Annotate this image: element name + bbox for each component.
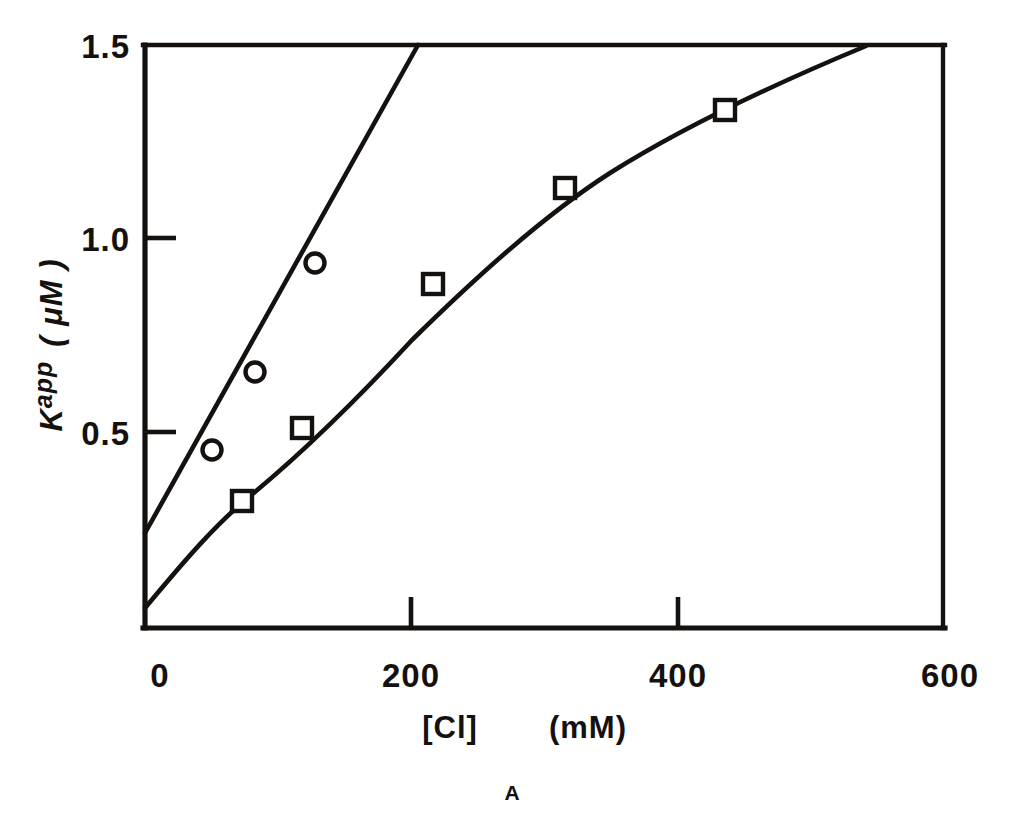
y-axis-title: Kapp( μM )	[29, 258, 69, 431]
data-point-circle-1	[203, 441, 222, 460]
y-axis-ticks	[145, 238, 176, 432]
panel-label-a: A	[504, 781, 519, 804]
data-point-circle-2	[246, 363, 265, 382]
y-tick-label-0: 0	[150, 657, 169, 694]
y-tick-label-0-5: 0.5	[81, 415, 130, 452]
x-tick-label-600: 600	[921, 657, 979, 694]
x-axis-title-bracket: [Cl]	[422, 710, 478, 745]
x-tick-label-200: 200	[382, 657, 440, 694]
axis-frame	[143, 45, 945, 628]
circle-series-curve	[145, 45, 418, 533]
square-series-curve	[145, 46, 866, 608]
x-axis-title-units: (mM)	[549, 710, 627, 745]
data-point-square-5	[715, 100, 735, 120]
data-point-square-3	[423, 274, 443, 294]
data-point-square-4	[555, 178, 575, 198]
data-point-square-1	[232, 491, 252, 511]
square-series-markers	[232, 100, 735, 511]
y-tick-label-1-0: 1.0	[81, 221, 130, 258]
x-tick-label-400: 400	[649, 657, 707, 694]
svg-text:Kapp( μM ): Kapp( μM )	[29, 258, 69, 431]
y-axis-title-units: ( μM )	[34, 258, 69, 346]
x-axis-tick-labels: 200 400 600	[382, 657, 979, 694]
y-tick-label-1-5: 1.5	[81, 28, 130, 65]
x-axis-ticks	[411, 597, 678, 628]
y-axis-title-superscript: app	[29, 361, 57, 408]
x-axis-title: [Cl] (mM)	[422, 710, 627, 745]
y-axis-title-symbol: K	[34, 407, 69, 432]
data-point-square-2	[292, 418, 312, 438]
chart-canvas: 1.5 1.0 0.5 0 200 400 600 [Cl] (mM) Kapp…	[0, 0, 1023, 834]
data-point-circle-3	[306, 254, 325, 273]
figure-root: 1.5 1.0 0.5 0 200 400 600 [Cl] (mM) Kapp…	[0, 0, 1023, 834]
